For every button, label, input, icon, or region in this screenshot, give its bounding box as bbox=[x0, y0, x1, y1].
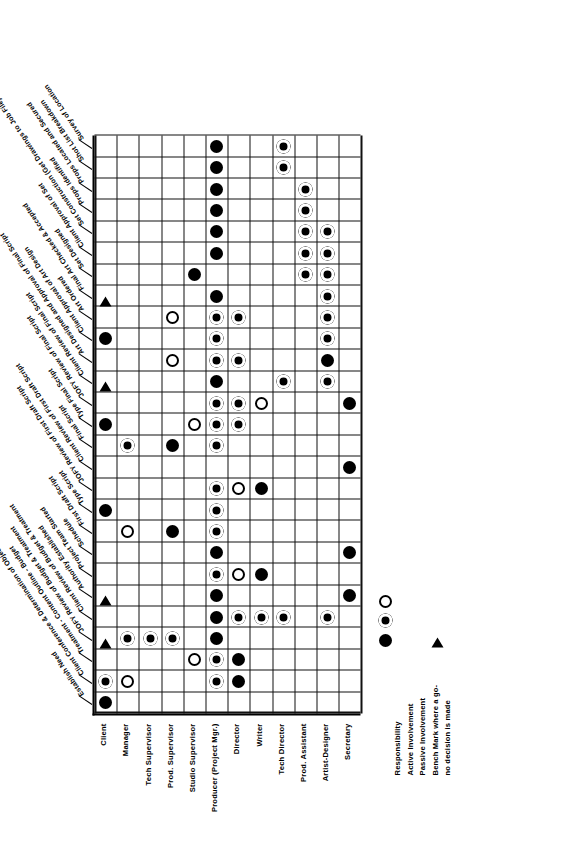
role-label-7: Writer bbox=[254, 723, 263, 746]
legend-label: Active Involvement bbox=[405, 703, 414, 775]
chart-marker-r bbox=[210, 139, 223, 152]
grid-hline bbox=[272, 135, 273, 713]
role-label-2: Tech Supervisor bbox=[143, 723, 152, 785]
role-label-3: Prod. Supervisor bbox=[165, 723, 174, 787]
page-canvas: Responsibility Active Involvement Passiv… bbox=[0, 0, 580, 867]
chart-marker-r bbox=[210, 204, 223, 217]
chart-marker-a bbox=[231, 310, 245, 324]
chart-marker-r bbox=[210, 589, 223, 602]
chart-marker-r bbox=[343, 546, 356, 559]
chart-marker-r bbox=[210, 225, 223, 238]
chart-marker-a bbox=[209, 481, 223, 495]
chart-marker-b bbox=[99, 296, 111, 306]
chart-marker-a bbox=[209, 503, 223, 517]
chart-marker-a bbox=[209, 439, 223, 453]
chart-marker-p bbox=[187, 418, 200, 431]
chart-marker-p bbox=[121, 674, 134, 687]
chart-marker-r bbox=[343, 460, 356, 473]
chart-marker-a bbox=[209, 353, 223, 367]
chart-marker-r bbox=[210, 610, 223, 623]
chart-marker-r bbox=[254, 567, 267, 580]
chart-marker-p bbox=[254, 396, 267, 409]
grid-hline bbox=[205, 135, 206, 713]
chart-marker-r bbox=[343, 396, 356, 409]
chart-marker-r bbox=[210, 161, 223, 174]
chart-marker-a bbox=[209, 567, 223, 581]
chart-marker-a bbox=[209, 417, 223, 431]
chart-marker-r bbox=[254, 482, 267, 495]
chart-marker-a bbox=[209, 674, 223, 688]
chart-marker-a bbox=[120, 439, 134, 453]
chart-marker-a bbox=[298, 182, 312, 196]
legend-triangle-icon bbox=[431, 637, 443, 647]
role-label-5: Producer (Project Mgr.) bbox=[210, 723, 219, 812]
chart-marker-a bbox=[320, 332, 334, 346]
chart-marker-r bbox=[321, 353, 334, 366]
grid-hline bbox=[183, 135, 184, 713]
legend-open-circle-icon bbox=[379, 595, 392, 608]
legend-filled-circle-icon bbox=[379, 634, 392, 647]
chart-marker-a bbox=[276, 160, 290, 174]
legend-label: no decision is made bbox=[442, 700, 451, 775]
chart-marker-p bbox=[187, 653, 200, 666]
legend-label: Bench Mark where a go- bbox=[430, 684, 439, 775]
chart-marker-a bbox=[231, 353, 245, 367]
chart-marker-r bbox=[165, 439, 178, 452]
role-label-9: Prod. Assistant bbox=[298, 723, 307, 781]
chart-marker-r bbox=[210, 375, 223, 388]
chart-marker-a bbox=[298, 267, 312, 281]
chart-marker-a bbox=[209, 524, 223, 538]
responsibility-chart-sheet: Responsibility Active Involvement Passiv… bbox=[0, 0, 580, 867]
chart-marker-r bbox=[210, 246, 223, 259]
chart-marker-r bbox=[232, 674, 245, 687]
chart-marker-p bbox=[232, 567, 245, 580]
chart-marker-r bbox=[99, 332, 112, 345]
grid-hline bbox=[294, 135, 295, 713]
chart-marker-a bbox=[209, 653, 223, 667]
role-label-0: Client bbox=[99, 723, 108, 745]
chart-marker-a bbox=[209, 310, 223, 324]
role-label-4: Studio Supervisor bbox=[187, 723, 196, 792]
chart-marker-a bbox=[320, 289, 334, 303]
chart-marker-a bbox=[320, 267, 334, 281]
chart-marker-r bbox=[187, 268, 200, 281]
chart-marker-a bbox=[98, 674, 112, 688]
grid-hline bbox=[249, 135, 250, 713]
chart-marker-a bbox=[143, 631, 157, 645]
chart-marker-b bbox=[99, 595, 111, 605]
role-label-1: Manager bbox=[121, 723, 130, 756]
chart-marker-r bbox=[232, 653, 245, 666]
legend-symbols bbox=[378, 587, 392, 647]
chart-marker-a bbox=[231, 396, 245, 410]
role-label-6: Director bbox=[232, 723, 241, 754]
chart-marker-r bbox=[210, 182, 223, 195]
chart-marker-r bbox=[210, 546, 223, 559]
chart-marker-p bbox=[165, 353, 178, 366]
chart-marker-a bbox=[276, 610, 290, 624]
role-label-11: Secretary bbox=[343, 723, 352, 759]
chart-marker-a bbox=[165, 631, 179, 645]
chart-marker-b bbox=[99, 381, 111, 391]
legend-label: Passive Involvement bbox=[417, 697, 426, 775]
chart-marker-r bbox=[210, 632, 223, 645]
chart-grid bbox=[92, 135, 360, 715]
chart-marker-a bbox=[298, 203, 312, 217]
grid-hline bbox=[94, 135, 96, 713]
grid-hline bbox=[116, 135, 117, 713]
chart-marker-r bbox=[99, 503, 112, 516]
chart-marker-r bbox=[210, 289, 223, 302]
grid-hline bbox=[161, 135, 162, 713]
chart-marker-p bbox=[165, 311, 178, 324]
chart-marker-r bbox=[165, 525, 178, 538]
grid-hline bbox=[227, 135, 228, 713]
role-label-8: Tech Director bbox=[276, 723, 285, 774]
chart-marker-a bbox=[276, 139, 290, 153]
chart-marker-a bbox=[320, 225, 334, 239]
grid-hline bbox=[138, 135, 139, 713]
legend-dotted-circle-icon bbox=[378, 613, 392, 627]
chart-marker-a bbox=[320, 246, 334, 260]
chart-marker-r bbox=[99, 418, 112, 431]
chart-marker-a bbox=[231, 417, 245, 431]
chart-marker-a bbox=[276, 374, 290, 388]
chart-marker-a bbox=[320, 374, 334, 388]
